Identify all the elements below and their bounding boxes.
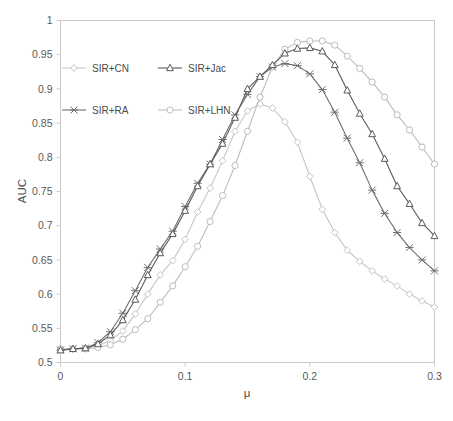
series-sir-cn — [57, 101, 438, 354]
data-point-marker — [332, 42, 338, 48]
y-tick-label: 0.9 — [38, 83, 53, 95]
data-point-marker — [357, 65, 363, 71]
data-point-marker — [431, 304, 438, 311]
chart-legend: SIR+CNSIR+JacSIR+RASIR+LHN — [62, 63, 231, 116]
data-point-marker — [144, 291, 151, 298]
data-point-marker — [419, 144, 425, 150]
y-tick-label: 0.65 — [32, 254, 53, 266]
x-tick-label: 0.1 — [178, 370, 193, 382]
data-point-marker — [195, 243, 201, 249]
legend-item-sir-cn[interactable]: SIR+CN — [62, 63, 129, 74]
data-point-marker — [281, 60, 289, 67]
data-point-marker — [394, 282, 401, 289]
data-point-marker — [232, 128, 239, 135]
legend-label: SIR+CN — [92, 63, 129, 74]
data-point-marker — [381, 155, 388, 161]
y-tick-label: 1 — [47, 14, 53, 26]
x-tick-label: 0.2 — [303, 370, 318, 382]
data-point-marker — [219, 193, 225, 199]
data-point-marker — [369, 79, 375, 85]
data-point-marker — [167, 107, 173, 113]
auc-vs-mu-line-chart: 0.50.550.60.650.70.750.80.850.90.951 00.… — [0, 0, 453, 421]
data-point-marker — [170, 283, 176, 289]
data-point-marker — [244, 107, 251, 114]
data-point-marker — [356, 110, 363, 116]
data-point-marker — [381, 210, 389, 217]
data-point-marker — [319, 206, 326, 213]
y-tick-label: 0.6 — [38, 288, 53, 300]
data-point-marker — [406, 127, 412, 133]
data-point-marker — [394, 112, 400, 118]
legend-item-sir-lhn[interactable]: SIR+LHN — [158, 105, 231, 116]
legend-item-sir-ra[interactable]: SIR+RA — [62, 105, 129, 116]
data-point-marker — [132, 296, 139, 302]
data-point-marker — [182, 236, 189, 243]
data-point-marker — [207, 218, 213, 224]
legend-label: SIR+Jac — [188, 63, 226, 74]
data-point-marker — [406, 291, 413, 298]
data-point-marker — [132, 327, 138, 333]
data-point-marker — [356, 159, 364, 166]
series-line — [61, 104, 435, 350]
data-point-marker — [107, 342, 113, 348]
data-point-marker — [405, 244, 413, 251]
data-point-marker — [344, 87, 351, 93]
data-point-marker — [182, 264, 188, 270]
y-tick-label: 0.85 — [32, 117, 53, 129]
data-point-marker — [294, 139, 301, 146]
data-point-marker — [319, 38, 325, 44]
y-tick-label: 0.55 — [32, 322, 53, 334]
data-point-marker — [145, 316, 151, 322]
y-tick-label: 0.8 — [38, 151, 53, 163]
data-point-marker — [306, 173, 313, 180]
data-point-marker — [393, 229, 401, 236]
y-axis-title: AUC — [16, 179, 28, 203]
x-tick-label: 0.3 — [427, 370, 442, 382]
data-series-layer — [56, 38, 438, 354]
series-line — [61, 48, 435, 350]
series-sir-jac — [57, 44, 438, 353]
y-tick-label: 0.7 — [38, 219, 53, 231]
y-tick-label: 0.75 — [32, 185, 53, 197]
data-point-marker — [394, 182, 401, 188]
data-point-marker — [70, 107, 78, 114]
data-point-marker — [343, 135, 351, 142]
data-point-marker — [219, 157, 226, 164]
data-point-marker — [257, 94, 263, 100]
data-point-marker — [232, 162, 238, 168]
data-point-marker — [381, 276, 388, 283]
data-point-marker — [120, 336, 126, 342]
x-axis-title: μ — [244, 387, 251, 399]
data-point-marker — [194, 209, 201, 216]
y-axis-ticks: 0.50.550.60.650.70.750.80.850.90.951 — [32, 14, 60, 368]
data-point-marker — [293, 62, 301, 69]
figure-container: 0.50.550.60.650.70.750.80.850.90.951 00.… — [0, 0, 453, 421]
legend-label: SIR+RA — [92, 105, 129, 116]
y-tick-label: 0.95 — [32, 48, 53, 60]
data-point-marker — [331, 229, 338, 236]
data-point-marker — [368, 187, 376, 194]
x-axis-ticks: 00.10.20.3 — [58, 363, 442, 382]
legend-item-sir-jac[interactable]: SIR+Jac — [158, 63, 226, 74]
y-tick-label: 0.5 — [38, 356, 53, 368]
data-point-marker — [419, 298, 426, 305]
data-point-marker — [318, 86, 326, 93]
data-point-marker — [157, 299, 163, 305]
data-point-marker — [71, 65, 78, 72]
data-point-marker — [306, 70, 314, 77]
data-point-marker — [306, 44, 313, 50]
data-point-marker — [331, 109, 339, 116]
data-point-marker — [344, 53, 350, 59]
data-point-marker — [369, 130, 376, 136]
data-point-marker — [431, 161, 437, 167]
data-point-marker — [418, 256, 426, 263]
data-point-marker — [207, 185, 214, 192]
data-point-marker — [244, 128, 250, 134]
x-tick-label: 0 — [58, 370, 64, 382]
data-point-marker — [382, 94, 388, 100]
legend-label: SIR+LHN — [188, 105, 231, 116]
